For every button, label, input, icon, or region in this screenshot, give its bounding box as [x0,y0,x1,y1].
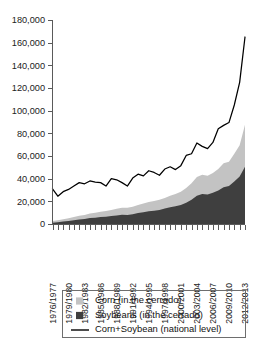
y-tick-label: 60,000 [17,151,45,161]
y-tick-label: 100,000 [12,106,45,116]
y-tick-label: 80,000 [17,129,45,139]
legend-label: Corn (in the cerrado) [95,294,182,305]
x-tick-label: 2009/2010 [224,283,234,324]
y-tick-label: 0 [40,219,45,229]
legend-label: Corn+Soybean (national level) [95,323,221,334]
legend-swatch [76,312,83,319]
y-tick-label: 40,000 [17,174,45,184]
chart-figure: 020,00040,00060,00080,000100,000120,0001… [0,0,260,356]
legend-swatch [76,297,83,304]
y-tick-label: 160,000 [12,38,45,48]
y-tick-label: 180,000 [12,15,45,25]
y-tick-label: 20,000 [17,197,45,207]
y-tick-label: 120,000 [12,83,45,93]
x-tick-label: 2006/2007 [208,283,218,324]
y-tick-label: 140,000 [12,61,45,71]
x-tick-label: 1979/1980 [64,283,74,324]
x-tick-label: 1976/1977 [48,283,58,324]
production-area-chart: 020,00040,00060,00080,000100,000120,0001… [0,0,260,356]
legend-label: Soybeans (in the cerrado) [95,309,203,320]
